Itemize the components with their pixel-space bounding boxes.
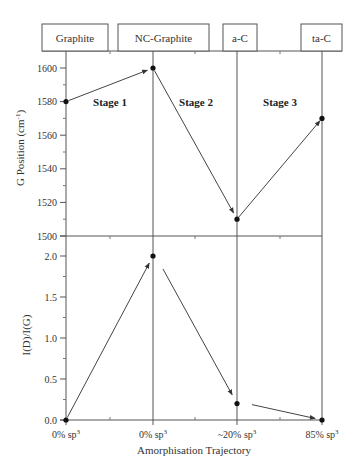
g-position-point-1 [150,65,155,70]
g-position-point-0 [63,99,68,104]
stage-label-3: Stage 3 [263,96,297,108]
y-tick-label: 1500 [37,231,57,242]
stage1-ratio-arrow [67,263,149,417]
phase-label: ta-C [312,32,331,44]
y-tick-label: 1600 [37,63,57,74]
x-tick-label: 0% sp3 [52,428,81,440]
stage-label-2: Stage 2 [179,96,213,108]
ratio-point-1 [150,253,155,258]
ratio-point-2 [234,401,239,406]
x-tick-label: 85% sp3 [305,428,339,440]
phase-label: a-C [232,32,248,44]
phase-label: Graphite [56,32,95,44]
amorphisation-chart: GraphiteNC-Graphitea-Cta-C15001520154015… [0,0,360,474]
y-tick-label: 1560 [37,130,57,141]
x-axis-title: Amorphisation Trajectory [137,444,251,456]
stage-label-1: Stage 1 [93,96,127,108]
phase-label: NC-Graphite [135,32,193,44]
y-tick-label: 1540 [37,163,57,174]
stage2-ratio-arrow [163,269,232,395]
y-axis-title-g-position: G Position (cm-1) [14,110,27,186]
g-position-point-2 [234,217,239,222]
stage3-g-arrow [239,121,320,217]
x-tick-label: 0% sp3 [139,428,168,440]
y-tick-label: 1.0 [45,333,58,344]
phase-header: GraphiteNC-Graphitea-Cta-C [42,24,342,51]
y-tick-label: 1520 [37,197,57,208]
stage2-g-arrow [154,71,233,213]
ratio-point-0 [63,417,68,422]
y-axis-title-intensity-ratio: I(D)/I(G) [20,314,33,355]
y-tick-label: 0.5 [45,374,58,385]
stage3-ratio-arrow [252,405,315,419]
y-tick-label: 1.5 [45,292,58,303]
g-position-point-3 [319,116,324,121]
y-tick-label: 0.0 [45,415,58,426]
y-tick-label: 1580 [37,96,57,107]
ratio-point-3 [319,417,324,422]
y-tick-label: 2.0 [45,251,58,262]
x-tick-label: ~20% sp3 [218,428,257,440]
